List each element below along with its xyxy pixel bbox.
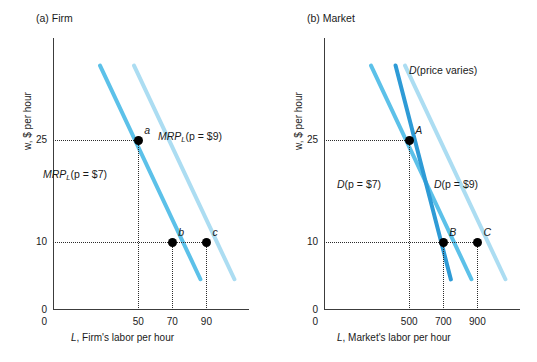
curve-label-mrp-l-p-7: MRPL(p = $7) (43, 168, 107, 182)
curve-b-2 (393, 63, 453, 282)
guide-horizontal-C (324, 242, 477, 243)
panel-market: (b) Market w, $ per hour L, Market's lab… (275, 0, 537, 362)
y-tick-25: 25 (21, 134, 47, 145)
panel-b-title: (b) Market (307, 12, 355, 24)
panel-a-x-axis (53, 309, 249, 310)
data-point-A (405, 136, 414, 145)
curve-label-d-p-7: D(p = $7) (337, 178, 381, 190)
x-tick-700: 700 (426, 316, 460, 327)
panel-b-x-axis-text: , Market's labor per hour (343, 332, 451, 343)
origin-label: 0 (292, 316, 318, 327)
panel-firm: (a) Firm w, $ per hour L, Firm's labor p… (0, 0, 275, 362)
point-label-A: A (415, 124, 422, 136)
guide-vertical-a (138, 140, 139, 310)
curve-label-d-price-varies: D(price varies) (409, 64, 477, 76)
guide-horizontal-c (53, 242, 206, 243)
y-tick-25: 25 (292, 134, 318, 145)
point-label-c: c (212, 226, 217, 238)
guide-horizontal-A (324, 140, 409, 141)
guide-vertical-C (477, 242, 478, 310)
panel-a-x-axis-text: , Firm's labor per hour (77, 332, 175, 343)
data-point-C (473, 238, 482, 247)
guide-vertical-A (409, 140, 410, 310)
guide-horizontal-a (53, 140, 138, 141)
origin-label: 0 (21, 316, 47, 327)
x-tick-70: 70 (155, 316, 189, 327)
y-tick-10: 10 (292, 236, 318, 247)
figure-root: (a) Firm w, $ per hour L, Firm's labor p… (0, 0, 537, 362)
point-label-B: B (449, 226, 456, 238)
x-tick-50: 50 (121, 316, 155, 327)
panel-a-title: (a) Firm (36, 12, 73, 24)
x-tick-90: 90 (189, 316, 223, 327)
x-tick-500: 500 (392, 316, 426, 327)
y-tick-10: 10 (21, 236, 47, 247)
guide-vertical-c (206, 242, 207, 310)
panel-b-x-axis-label: L, Market's labor per hour (337, 332, 451, 343)
panel-b-plot-area: ABC25100500700900D(p = $7)D(p = $9)D(pri… (324, 38, 520, 310)
guide-vertical-b (172, 242, 173, 310)
panel-b-x-axis (324, 309, 520, 310)
curve-label-d-p-9: D(p = $9) (434, 178, 478, 190)
point-label-a: a (144, 124, 150, 136)
data-point-B (439, 238, 448, 247)
data-point-a (134, 136, 143, 145)
curve-label-mrp-l-p-9: MRPL(p = $9) (158, 130, 222, 144)
panel-a-x-axis-label: L, Firm's labor per hour (71, 332, 174, 343)
y-tick-0: 0 (21, 304, 47, 315)
data-point-c (202, 238, 211, 247)
x-tick-900: 900 (460, 316, 494, 327)
point-label-C: C (483, 226, 491, 238)
point-label-b: b (178, 226, 184, 238)
panel-b-y-axis (324, 38, 325, 310)
data-point-b (168, 238, 177, 247)
panel-a-plot-area: abc25100507090MRPL(p = $7)MRPL(p = $9)0 (53, 38, 249, 310)
guide-vertical-B (443, 242, 444, 310)
y-tick-0: 0 (292, 304, 318, 315)
